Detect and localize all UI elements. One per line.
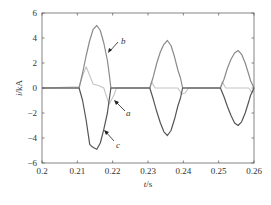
series-a-line xyxy=(42,67,254,105)
y-tick-label: −4 xyxy=(27,133,37,143)
x-axis-label: t/s xyxy=(144,179,153,189)
label-a: a xyxy=(126,108,131,118)
y-tick-label: 4 xyxy=(33,33,38,43)
x-tick-label: 0.2 xyxy=(36,166,47,176)
annotation-b: b xyxy=(108,36,126,53)
x-tick-label: 0.22 xyxy=(105,166,121,176)
label-b: b xyxy=(121,36,126,46)
y-tick-labels: 6420−2−4−6 xyxy=(27,8,37,168)
y-axis-label: i/kA xyxy=(14,79,24,96)
x-tick-label: 0.21 xyxy=(69,166,85,176)
label-c: c xyxy=(116,140,120,150)
y-tick-label: 0 xyxy=(33,83,38,93)
y-tick-label: −2 xyxy=(27,108,37,118)
series-layer xyxy=(42,26,254,150)
x-tick-label: 0.25 xyxy=(211,166,227,176)
annotation-c: c xyxy=(104,130,120,150)
figure-caption-faint xyxy=(60,193,210,199)
x-tick-label: 0.26 xyxy=(246,166,262,176)
annotation-a: a xyxy=(114,100,131,118)
x-tick-labels: 0.20.210.220.230.240.250.26 xyxy=(36,166,262,176)
y-tick-label: 2 xyxy=(33,58,38,68)
series-c-line xyxy=(42,88,254,149)
x-tick-label: 0.24 xyxy=(175,166,191,176)
current-waveform-chart: 0.20.210.220.230.240.250.26 6420−2−4−6 t… xyxy=(0,0,271,205)
y-tick-label: 6 xyxy=(33,8,38,18)
x-tick-label: 0.23 xyxy=(140,166,156,176)
y-tick-label: −6 xyxy=(27,158,37,168)
arrowhead-b-icon xyxy=(108,48,112,53)
series-b-line xyxy=(42,26,254,89)
